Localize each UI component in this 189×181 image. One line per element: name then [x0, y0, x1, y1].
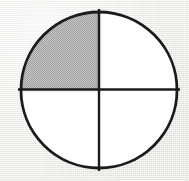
- quartered-circle-diagram: Circle divided into four equal quadrants…: [0, 0, 189, 181]
- fraction-circle-figure: Circle divided into four equal quadrants…: [0, 0, 189, 181]
